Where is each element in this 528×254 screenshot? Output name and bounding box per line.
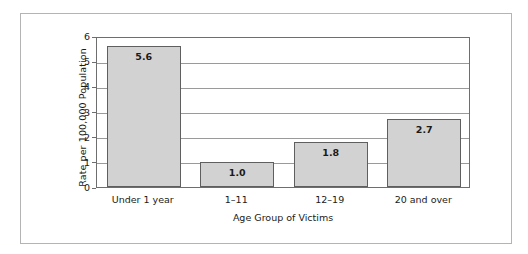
y-tick-label: 0 xyxy=(74,183,90,193)
x-axis-title: Age Group of Victims xyxy=(96,212,470,223)
bar-value-label: 2.7 xyxy=(388,124,460,135)
y-tick-label: 3 xyxy=(74,108,90,118)
bar-value-label: 5.6 xyxy=(108,51,180,62)
x-tick-label: 20 and over xyxy=(377,194,471,205)
y-tick-label: 4 xyxy=(74,82,90,92)
bar: 1.0 xyxy=(200,162,274,187)
bar-value-label: 1.0 xyxy=(201,167,273,178)
bar: 1.8 xyxy=(294,142,368,187)
y-tick-label: 5 xyxy=(74,57,90,67)
y-tick-label: 6 xyxy=(74,32,90,42)
x-tick-label: 12–19 xyxy=(283,194,377,205)
y-tick-label: 2 xyxy=(74,133,90,143)
figure-canvas: Rate per 100,000 Population 0123456 5.61… xyxy=(0,0,528,254)
x-tick-label: 1–11 xyxy=(190,194,284,205)
bar-value-label: 1.8 xyxy=(295,147,367,158)
y-tick-label: 1 xyxy=(74,158,90,168)
bar: 2.7 xyxy=(387,119,461,187)
x-tick-label: Under 1 year xyxy=(96,194,190,205)
plot-area: 5.61.01.82.7 xyxy=(96,37,470,188)
bar: 5.6 xyxy=(107,46,181,187)
